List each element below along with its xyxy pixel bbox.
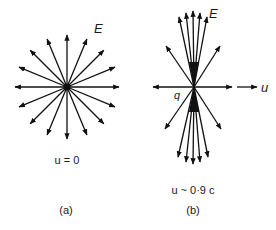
field-label-b: E	[209, 6, 218, 21]
caption-a: (a)	[59, 204, 72, 216]
field-line-arrow	[30, 50, 67, 87]
condition-label-b: u ~ 0·9 c	[171, 184, 215, 196]
field-line-arrow	[67, 50, 104, 87]
condition-label-a: u = 0	[55, 154, 80, 166]
charge-dot-a	[64, 84, 71, 91]
velocity-label: u	[261, 80, 268, 95]
caption-b: (b)	[186, 204, 199, 216]
field-lines-diagram: E u = 0 (a) u q E u ~ 0·9 c (b)	[0, 0, 276, 230]
charge-label: q	[174, 89, 181, 101]
field-label-a: E	[94, 21, 103, 36]
field-line-arrow	[30, 87, 67, 124]
field-line-arrow	[67, 87, 104, 124]
panel-b-relativistic-field	[153, 11, 232, 164]
